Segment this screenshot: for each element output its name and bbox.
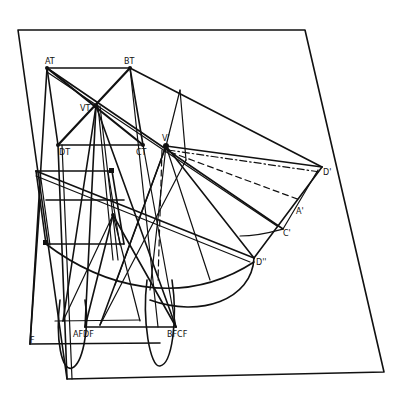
point-v-front (111, 213, 115, 217)
point-v-t (94, 104, 99, 109)
label-f: F (30, 336, 35, 345)
label-c-t: CT (136, 148, 147, 157)
label-d-t: DT (59, 148, 70, 157)
point-front-upper-right (109, 168, 114, 173)
point-v-prime (163, 143, 169, 149)
geometry-diagram: AT BT VT DT CT V' D' C' A' D'' AFDF BFCF… (0, 0, 405, 406)
diagram-canvas: AT BT VT DT CT V' D' C' A' D'' AFDF BFCF… (0, 0, 405, 406)
label-b-t: BT (124, 57, 134, 66)
label-a-prime: A' (296, 207, 304, 216)
point-d-t (56, 143, 60, 147)
label-d-prime: D' (323, 168, 331, 177)
plane-frame (18, 30, 384, 379)
arc-c-prime (240, 229, 283, 236)
label-d-dprime: D'' (256, 258, 267, 267)
point-c-t (141, 143, 145, 147)
point-a-t (45, 66, 49, 70)
point-front-lower-left (43, 240, 48, 245)
point-b-t (128, 66, 132, 70)
right-projection-lines (36, 68, 322, 262)
label-af-df: AFDF (73, 330, 94, 339)
label-bf-cf: BFCF (167, 330, 188, 339)
label-a-t: AT (45, 57, 55, 66)
label-v-prime: V' (162, 134, 170, 143)
label-v-t: VT (80, 104, 90, 113)
label-c-prime: C' (283, 229, 291, 238)
